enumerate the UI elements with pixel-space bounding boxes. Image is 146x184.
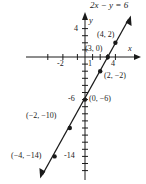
y-axis-name: y [89, 16, 93, 25]
data-point-0-neg6 [83, 97, 87, 101]
point-label-4-2: (4, 2) [97, 31, 114, 39]
data-point-3-0 [106, 55, 110, 59]
y-tick-label-neg14: -14 [64, 152, 75, 160]
x-axis [26, 54, 141, 60]
data-point-neg2-neg10 [68, 126, 72, 130]
graph-figure: 2x − y = 6 y x 4 -6 -14 -2 1 4 (4, 2) (3… [0, 0, 146, 184]
point-label-neg4-neg14: (−4, −14) [11, 152, 41, 160]
point-label-3-0: (3, 0) [85, 45, 102, 53]
data-point-2-neg2 [98, 69, 102, 73]
point-label-neg2-neg10: (−2, −10) [26, 112, 56, 120]
x-axis-name: x [128, 44, 132, 53]
data-point-neg4-neg14 [52, 154, 56, 158]
x-tick-label-4: 4 [111, 60, 115, 68]
x-tick-label-neg2: -2 [57, 60, 64, 68]
point-label-2-neg2: (2, −2) [104, 72, 126, 80]
x-tick-label-1: 1 [88, 60, 92, 68]
equation-label: 2x − y = 6 [90, 1, 128, 10]
y-axis [82, 12, 88, 180]
point-label-0-neg6: (0, −6) [89, 95, 111, 103]
y-tick-label-neg6: -6 [68, 95, 75, 103]
data-point-4-2 [113, 41, 117, 45]
y-tick-label-4: 4 [74, 25, 78, 33]
